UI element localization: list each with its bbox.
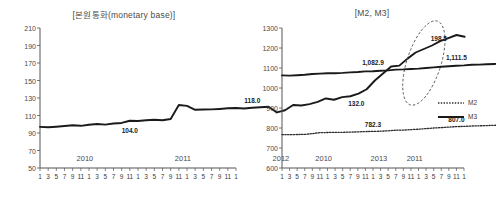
x-axis-month-label: 7 <box>112 173 116 180</box>
x-axis-month-label: 7 <box>63 173 67 180</box>
x-axis-month-label: 9 <box>447 173 451 180</box>
x-axis-month-label: 9 <box>169 173 173 180</box>
x-axis-month-label: 11 <box>408 173 415 180</box>
x-axis-month-label: 7 <box>439 173 443 180</box>
x-axis-month-label: 3 <box>193 173 197 180</box>
x-axis-month-label: 1 <box>462 173 466 180</box>
x-axis-month-label: 1 <box>136 173 140 180</box>
x-axis-month-label: 5 <box>55 173 59 180</box>
x-axis-month-label: 9 <box>356 173 360 180</box>
x-axis-month-label: 11 <box>224 173 231 180</box>
x-axis-month-label: 3 <box>333 173 337 180</box>
y-axis-tick-label: 800 <box>266 125 282 132</box>
x-axis-month-label: 1 <box>417 173 421 180</box>
x-axis-month-label: 11 <box>175 173 182 180</box>
y-axis-tick-label: 130 <box>24 95 40 102</box>
x-axis-month-label: 11 <box>453 173 460 180</box>
x-axis-month-label: 11 <box>362 173 369 180</box>
y-axis-tick-label: 1300 <box>262 25 282 32</box>
x-axis-month-label: 3 <box>424 173 428 180</box>
x-axis-month-label: 3 <box>288 173 292 180</box>
x-axis-month-label: 1 <box>234 173 238 180</box>
x-axis-month-label: 5 <box>432 173 436 180</box>
right-plot-area: 1300120011001000900800700600135791113579… <box>282 28 464 168</box>
left-chart-title: [본원통화(monetary base)] <box>0 8 248 20</box>
x-axis-month-label: 7 <box>394 173 398 180</box>
x-axis-year-label: 2011 <box>175 154 191 163</box>
x-axis-month-label: 9 <box>71 173 75 180</box>
y-axis-tick-label: 170 <box>24 60 40 67</box>
x-axis-year-label: 2011 <box>407 154 423 163</box>
x-axis-month-label: 11 <box>126 173 133 180</box>
legend-swatch-m2-icon <box>438 99 464 107</box>
y-axis-tick-label: 190 <box>24 42 40 49</box>
x-axis-month-label: 1 <box>326 173 330 180</box>
x-axis-month-label: 3 <box>46 173 50 180</box>
x-axis-month-label: 9 <box>218 173 222 180</box>
x-axis-month-label: 7 <box>348 173 352 180</box>
x-axis-year-label: 2010 <box>77 154 94 163</box>
x-axis-month-label: 11 <box>317 173 324 180</box>
y-axis-tick-label: 150 <box>24 77 40 84</box>
x-axis-month-label: 1 <box>371 173 375 180</box>
data-point-label: 1,082.9 <box>362 59 384 66</box>
data-point-label: 1,111.5 <box>446 53 467 60</box>
y-axis-tick-label: 600 <box>266 165 282 172</box>
y-axis-tick-label: 90 <box>28 130 40 137</box>
chart-figure: [본원통화(monetary base)] 210190170150130110… <box>0 0 496 218</box>
right-chart-title: [M2, M3] <box>248 8 496 18</box>
x-axis-month-label: 7 <box>303 173 307 180</box>
x-axis-month-label: 1 <box>87 173 91 180</box>
m2-m3-panel: [M2, M3] 1300120011001000900800700600135… <box>248 0 496 218</box>
x-axis-month-label: 5 <box>295 173 299 180</box>
left-chart-svg <box>40 28 236 168</box>
legend-item-m3: M3 <box>438 110 494 124</box>
x-axis-month-label: 3 <box>379 173 383 180</box>
left-plot-area: 2101901701501301109070501357911135791113… <box>40 28 236 168</box>
legend-item-m2: M2 <box>438 96 494 110</box>
x-axis-month-label: 5 <box>202 173 206 180</box>
y-axis-tick-label: 70 <box>28 147 40 154</box>
x-axis-month-label: 9 <box>311 173 315 180</box>
y-axis-tick-label: 210 <box>24 25 40 32</box>
x-axis-month-label: 3 <box>95 173 99 180</box>
y-axis-tick-label: 1200 <box>262 45 282 52</box>
x-axis-month-label: 1 <box>38 173 42 180</box>
x-axis-month-label: 5 <box>341 173 345 180</box>
x-axis-month-label: 5 <box>386 173 390 180</box>
x-axis-month-label: 7 <box>161 173 165 180</box>
x-axis-month-label: 9 <box>402 173 406 180</box>
y-axis-tick-label: 1000 <box>262 85 282 92</box>
x-axis-month-label: 3 <box>144 173 148 180</box>
x-axis-year-label: 2010 <box>315 154 332 163</box>
data-point-label: 104.0 <box>122 126 138 133</box>
x-axis-month-label: 11 <box>77 173 84 180</box>
legend-label-m2: M2 <box>468 100 477 107</box>
legend: M2 M3 <box>438 96 494 124</box>
x-axis-month-label: 9 <box>120 173 124 180</box>
y-axis-tick-label: 110 <box>25 112 40 119</box>
legend-label-m3: M3 <box>468 114 477 121</box>
y-axis-tick-label: 1100 <box>263 65 282 72</box>
right-chart-svg <box>282 28 464 168</box>
monetary-base-panel: [본원통화(monetary base)] 210190170150130110… <box>0 0 248 218</box>
y-axis-tick-label: 700 <box>266 145 282 152</box>
x-axis-month-label: 5 <box>153 173 157 180</box>
y-axis-tick-label: 50 <box>28 165 40 172</box>
x-axis-month-label: 1 <box>185 173 189 180</box>
x-axis-month-label: 7 <box>210 173 214 180</box>
y-axis-tick-label: 900 <box>266 105 282 112</box>
x-axis-month-label: 1 <box>280 173 284 180</box>
data-point-label: 782.3 <box>365 120 381 127</box>
legend-swatch-m3-icon <box>438 113 464 121</box>
x-axis-month-label: 5 <box>104 173 108 180</box>
